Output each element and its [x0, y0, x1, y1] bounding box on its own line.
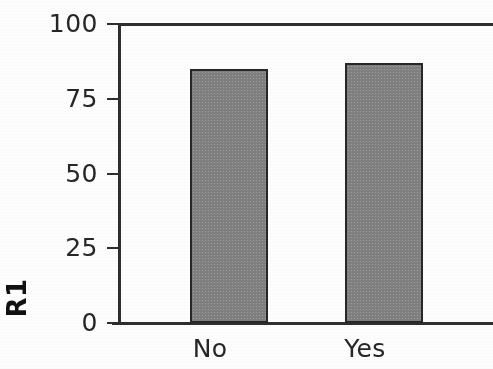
y-axis-title: R1 — [0, 268, 34, 328]
y-axis-label-75: 75 — [18, 86, 98, 111]
y-axis-title-text: R1 — [2, 278, 32, 317]
x-axis-label-no: No — [150, 336, 270, 362]
plot-area — [119, 24, 493, 323]
y-axis-label-100: 100 — [18, 11, 98, 36]
y-axis-tick-50 — [107, 173, 119, 175]
bar-chart-figure: 100 75 50 25 0 R1 No Yes — [0, 0, 493, 369]
bar-no[interactable] — [190, 69, 268, 323]
bar-yes[interactable] — [345, 63, 423, 323]
y-axis-tick-100 — [107, 23, 119, 25]
x-axis-label-yes: Yes — [305, 336, 425, 362]
y-axis-tick-75 — [107, 98, 119, 100]
y-axis-tick-25 — [107, 247, 119, 249]
y-axis-tick-0 — [107, 322, 119, 324]
y-axis-label-25: 25 — [18, 235, 98, 260]
y-axis-label-50: 50 — [18, 161, 98, 186]
